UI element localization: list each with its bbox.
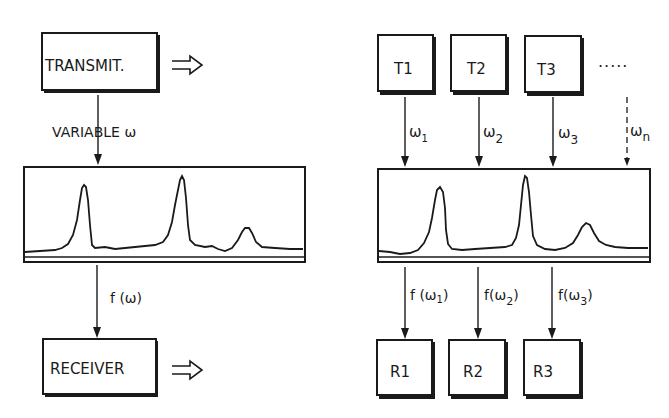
receiver-box-r2: R2 bbox=[449, 340, 508, 399]
transmitter-label: TRANSMIT. bbox=[44, 57, 125, 75]
transmitter-label-t1: T1 bbox=[393, 60, 413, 78]
double-arrow-icon bbox=[172, 361, 202, 379]
spectrum-panel-right bbox=[378, 169, 650, 262]
arrowhead-icon bbox=[475, 156, 483, 167]
omega-n-label: ωn bbox=[630, 122, 650, 144]
receiver-box-r1: R1 bbox=[377, 340, 435, 399]
ellipsis: ····· bbox=[598, 57, 628, 76]
double-arrow-icon bbox=[172, 56, 202, 74]
receiver-label: RECEIVER bbox=[50, 360, 124, 378]
arrowhead-icon bbox=[94, 154, 102, 165]
arrowhead-icon bbox=[93, 327, 101, 338]
omega3-label: ω3 bbox=[558, 124, 578, 147]
f-omega2-label: f(ω2) bbox=[484, 287, 519, 308]
arrowhead-icon bbox=[624, 158, 630, 166]
receiver-label-r2: R2 bbox=[463, 363, 483, 381]
arrowhead-icon bbox=[548, 328, 556, 339]
transmitter-box-t3: T3 bbox=[525, 36, 584, 96]
arrowhead-icon bbox=[401, 156, 409, 167]
f-omega-label: f (ω) bbox=[110, 290, 142, 306]
receiver-box: RECEIVER bbox=[43, 339, 158, 397]
receiver-label-r3: R3 bbox=[533, 363, 553, 381]
arrowhead-icon bbox=[474, 328, 482, 339]
transmitter-label-t3: T3 bbox=[536, 61, 556, 79]
variable-omega-label: VARIABLE ω bbox=[52, 124, 136, 140]
transmitter-box-t2: T2 bbox=[451, 35, 509, 95]
receiver-box-r3: R3 bbox=[524, 340, 583, 399]
diagram-canvas: TRANSMIT. VARIABLE ω f (ω) RECEIVER T1 T… bbox=[0, 0, 669, 418]
omega1-label: ω1 bbox=[409, 123, 428, 144]
transmitter-label-t2: T2 bbox=[466, 60, 486, 78]
f-omega3-label: f(ω3) bbox=[558, 287, 593, 308]
arrowhead-icon bbox=[549, 156, 557, 167]
transmitter-box-t1: T1 bbox=[378, 35, 436, 95]
transmitter-box: TRANSMIT. bbox=[42, 33, 160, 93]
spectrum-panel-left bbox=[24, 167, 305, 262]
f-omega1-label: f (ω1) bbox=[410, 287, 448, 305]
arrowhead-icon bbox=[401, 328, 409, 339]
omega2-label: ω2 bbox=[483, 123, 503, 146]
receiver-label-r1: R1 bbox=[390, 363, 410, 381]
